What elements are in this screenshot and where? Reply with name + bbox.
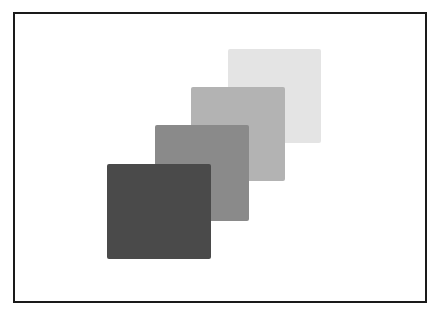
gray-swatch-dark bbox=[107, 164, 211, 259]
